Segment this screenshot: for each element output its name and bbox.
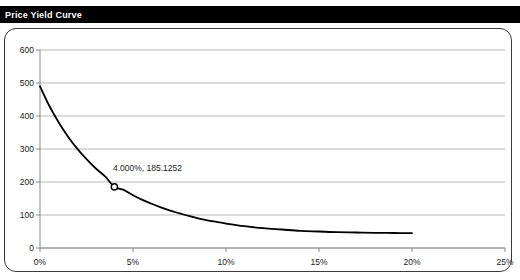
x-axis-tick-label: 10% [206, 257, 246, 267]
x-axis-tick-label: 0% [20, 257, 60, 267]
data-point-annotation: 4.000%, 185.1252 [113, 163, 182, 173]
x-axis-tick-label: 15% [299, 257, 339, 267]
y-axis-tick-label: 300 [8, 144, 34, 154]
y-axis-tick-label: 100 [8, 210, 34, 220]
y-axis-tick-label: 400 [8, 111, 34, 121]
page-title: Price Yield Curve [0, 10, 82, 20]
y-axis-tick-label: 600 [8, 45, 34, 55]
x-axis-tick-label: 25% [485, 257, 520, 267]
y-axis-tick-label: 0 [8, 243, 34, 253]
y-axis-tick-label: 200 [8, 177, 34, 187]
x-axis-tick-label: 20% [392, 257, 432, 267]
y-axis-tick-label: 500 [8, 78, 34, 88]
chart-window: Price Yield Curve 0100200300400500600 0%… [0, 0, 520, 280]
x-axis-tick-label: 5% [113, 257, 153, 267]
chart-frame [4, 28, 512, 272]
title-bar: Price Yield Curve [0, 6, 520, 23]
